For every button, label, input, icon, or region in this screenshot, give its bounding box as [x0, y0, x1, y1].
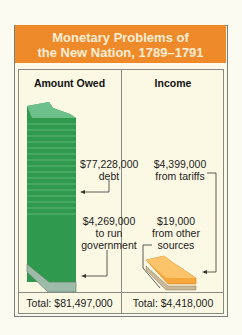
other-sources-text-1: from other	[146, 227, 206, 239]
amount-owed-total: Total: $81,497,000	[18, 297, 121, 309]
tariffs-text: from tariffs	[146, 170, 214, 182]
tariffs-amount: $4,399,000	[146, 158, 214, 170]
total-row-divider	[18, 292, 224, 293]
debt-money-stack	[27, 102, 76, 282]
government-text-2: government	[80, 239, 138, 251]
debt-amount: $77,228,000	[80, 158, 138, 170]
debt-label: $77,228,000 debt	[80, 158, 138, 182]
government-text-1: to run	[80, 227, 138, 239]
other-sources-label: $19,000 from other sources	[146, 215, 206, 251]
tariffs-label: $4,399,000 from tariffs	[146, 158, 214, 182]
other-sources-text-2: sources	[146, 239, 206, 251]
government-amount: $4,269,000	[80, 215, 138, 227]
income-total: Total: $4,418,000	[122, 297, 224, 309]
debt-text: debt	[80, 170, 138, 182]
other-sources-amount: $19,000	[146, 215, 206, 227]
government-label: $4,269,000 to run government	[80, 215, 138, 251]
